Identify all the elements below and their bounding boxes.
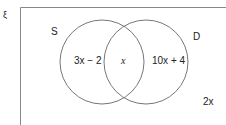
region-outside: 2x (203, 96, 214, 107)
venn-canvas (0, 0, 226, 125)
region-d-only: 10x + 4 (152, 55, 185, 66)
region-intersection: x (121, 55, 125, 66)
universal-set-symbol: ξ (3, 10, 7, 20)
set-s-label: S (51, 26, 58, 37)
region-s-only: 3x − 2 (74, 55, 102, 66)
set-s-circle (60, 20, 144, 104)
set-d-label: D (193, 31, 200, 42)
